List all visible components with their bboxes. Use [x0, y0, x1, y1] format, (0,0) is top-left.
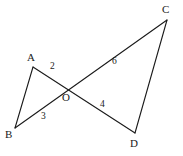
- geometry-canvas: [0, 0, 183, 156]
- vertex-label-b: B: [5, 129, 12, 140]
- angle-label-3: 3: [41, 112, 46, 122]
- angle-label-2: 2: [50, 62, 55, 72]
- segment-ab: [15, 67, 33, 128]
- segment-bc: [15, 20, 167, 128]
- angle-label-6: 6: [112, 57, 117, 67]
- segment-group: [15, 20, 167, 133]
- vertex-label-c: C: [162, 4, 169, 15]
- vertex-label-a: A: [27, 52, 35, 63]
- geometry-figure: A B C D O 2 3 4 6: [0, 0, 183, 156]
- vertex-label-o: O: [62, 92, 70, 103]
- segment-cd: [135, 20, 167, 133]
- angle-label-4: 4: [100, 100, 105, 110]
- segment-ad: [33, 67, 135, 133]
- vertex-label-d: D: [130, 138, 138, 149]
